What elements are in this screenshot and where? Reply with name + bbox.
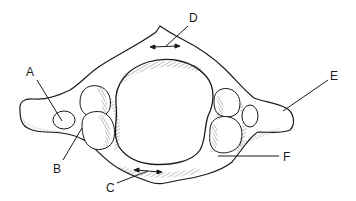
label-e: E (330, 70, 338, 82)
label-a: A (26, 66, 34, 78)
left-transverse-foramen (53, 111, 75, 129)
leader-line-e (283, 80, 328, 111)
label-b: B (53, 163, 61, 175)
right-transverse-foramen (242, 105, 258, 127)
vertebral-foramen (115, 59, 213, 164)
label-f: F (283, 151, 290, 163)
label-c: C (106, 182, 115, 194)
label-d: D (189, 12, 198, 24)
